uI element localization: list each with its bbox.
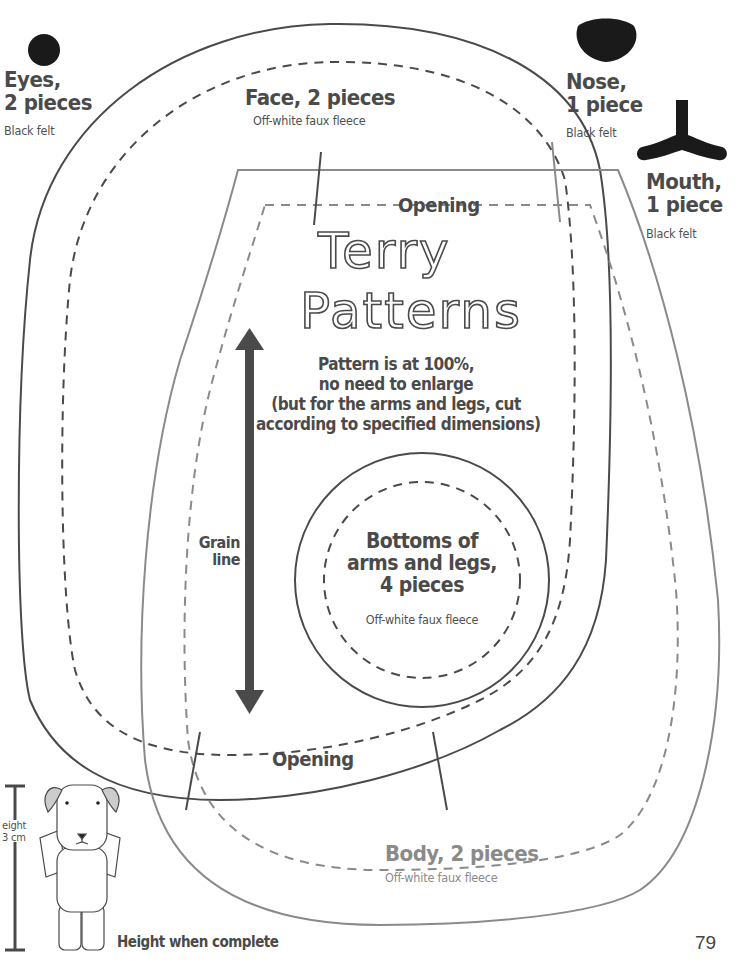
completed-teddy-illustration <box>40 785 120 950</box>
scale-note-line-4: according to specified dimensions) <box>256 415 536 435</box>
opening-notch-top-right <box>552 142 560 222</box>
page-number: 79 <box>695 932 716 954</box>
limb-bottoms-line-3: 4 pieces <box>322 574 522 596</box>
nose-label: Nose, 1 piece <box>566 70 643 116</box>
limb-bottoms-label: Bottoms of arms and legs, 4 pieces <box>322 530 522 596</box>
height-scale-bar <box>4 786 38 950</box>
body-material: Off-white faux fleece <box>385 870 498 885</box>
mouth-label: Mouth, 1 piece <box>646 170 723 216</box>
scale-note-line-1: Pattern is at 100%, <box>256 355 536 375</box>
limb-bottoms-line-1: Bottoms of <box>322 530 522 552</box>
limb-bottoms-material: Off-white faux fleece <box>322 612 522 627</box>
nose-name: Nose, <box>566 70 643 93</box>
pattern-drawing <box>0 0 738 967</box>
nose-material: Black felt <box>566 125 616 140</box>
nose-piece-shape <box>577 19 637 63</box>
scale-note: Pattern is at 100%, no need to enlarge (… <box>256 355 536 435</box>
eyes-count: 2 pieces <box>4 91 92 114</box>
eye-piece-shape <box>28 34 60 66</box>
height-value: eight 3 cm <box>2 820 26 843</box>
limb-bottoms-line-2: arms and legs, <box>322 552 522 574</box>
mouth-count: 1 piece <box>646 193 723 216</box>
opening-notch-top-left <box>314 152 321 225</box>
nose-count: 1 piece <box>566 93 643 116</box>
title-line-1: Terry <box>318 222 451 280</box>
height-label-partial: eight <box>2 820 26 832</box>
opening-notch-bottom-right <box>433 732 447 810</box>
opening-top-label: Opening <box>398 195 480 216</box>
face-label: Face, 2 pieces <box>245 86 395 109</box>
face-material: Off-white faux fleece <box>253 113 366 128</box>
eyes-label: Eyes, 2 pieces <box>4 68 92 114</box>
body-label: Body, 2 pieces <box>385 842 538 865</box>
opening-bottom-label: Opening <box>272 749 354 770</box>
title-line-2: Patterns <box>300 282 522 340</box>
scale-note-line-2: no need to enlarge <box>256 375 536 395</box>
height-caption: Height when complete <box>117 935 278 951</box>
grain-line-label: Grain line <box>192 535 240 569</box>
mouth-material: Black felt <box>646 226 696 241</box>
mouth-piece-shape <box>637 100 727 160</box>
grain-line-label-2: line <box>192 552 240 569</box>
eyes-material: Black felt <box>4 123 54 138</box>
eyes-name: Eyes, <box>4 68 92 91</box>
scale-note-line-3: (but for the arms and legs, cut <box>256 395 536 415</box>
height-value-partial: 3 cm <box>2 832 26 844</box>
mouth-name: Mouth, <box>646 170 723 193</box>
